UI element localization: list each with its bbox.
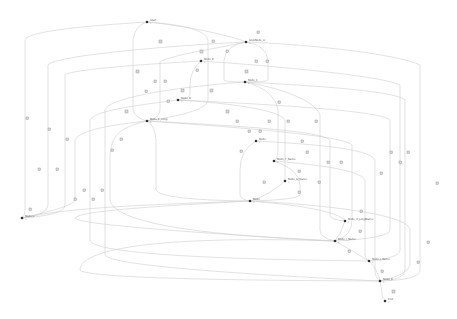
node-label: Node_J_Name: [372, 258, 390, 261]
graph-node[interactable]: Node_I_Name1: [334, 238, 356, 243]
node-label: Node_D: [181, 97, 191, 100]
svg-text:1: 1: [338, 241, 340, 243]
node-label: Node_E_Long: [150, 118, 168, 121]
svg-text:1: 1: [388, 301, 390, 303]
node-label: Node_C: [248, 79, 258, 82]
graph-node[interactable]: Node1: [255, 138, 266, 143]
svg-text:1: 1: [25, 218, 27, 220]
node-label: StepNode_A: [249, 39, 265, 42]
edges: [22, 22, 420, 299]
graph-node[interactable]: Node1: [249, 198, 260, 203]
node-label: Node_K: [383, 278, 393, 281]
svg-text:1: 1: [348, 221, 350, 223]
node-label: Node_L: [25, 215, 35, 218]
graph-node[interactable]: Node_J_Name1: [368, 258, 390, 263]
graph-node[interactable]: Node_L1: [21, 215, 35, 220]
graph-node[interactable]: Node_K1: [379, 278, 393, 283]
graph-node[interactable]: StepNode_A1: [245, 39, 265, 44]
graph-canvas: Start1 StepNode_A1 Node_B1 Node_C1 Node_…: [0, 0, 457, 319]
graph-node[interactable]: Start1: [146, 19, 157, 24]
svg-text:1: 1: [383, 281, 385, 283]
svg-text:1: 1: [372, 261, 374, 263]
node-label: Node_I_Name: [338, 238, 356, 241]
node-label: Node_H_LongName: [348, 218, 374, 221]
graph-node[interactable]: Node_B1: [200, 58, 214, 63]
edge-labels: [26, 31, 439, 293]
graph-node[interactable]: Node_G_Name1: [284, 178, 308, 183]
graph-node[interactable]: Node_D1: [177, 97, 191, 102]
svg-text:1: 1: [288, 181, 290, 183]
node-label: Node_F_Name: [277, 158, 296, 161]
node-label: Node_G_Name: [288, 178, 307, 181]
graph-node[interactable]: End1: [384, 298, 394, 303]
graph-node[interactable]: Node_F_Name1: [273, 158, 296, 163]
node-label: Node_B: [204, 58, 214, 61]
graph-node[interactable]: Node_H_LongName1: [344, 218, 374, 223]
